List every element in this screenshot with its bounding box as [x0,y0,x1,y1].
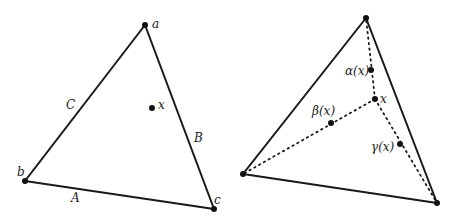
beta-point-dot [328,120,334,126]
right-triangle: x α(x) β(x) γ(x) [240,15,440,206]
point-x-dot [372,96,378,102]
gamma-point-dot [397,141,403,147]
label-b: b [17,165,25,179]
left-triangle: a b c x C B A [17,17,221,212]
label-x: x [158,98,165,112]
label-x: x [380,92,387,106]
vertex-right-dot [434,200,440,206]
diagram-canvas: a b c x C B A x α(x) β(x) γ(x) [0,0,455,224]
vertex-top-dot [363,15,369,21]
label-alpha: α(x) [345,64,370,78]
dotted-line-x-left [243,99,375,174]
label-c: c [214,193,221,207]
label-side-A: A [70,191,80,205]
label-a: a [152,17,159,31]
label-side-B: B [193,131,203,145]
point-x-dot [149,105,155,111]
vertex-a-dot [142,22,148,28]
triangle-outline [243,18,437,203]
label-side-C: C [66,98,75,112]
label-gamma: γ(x) [371,140,395,154]
label-beta: β(x) [311,104,335,118]
triangle-abc [25,25,214,209]
vertex-left-dot [240,171,246,177]
